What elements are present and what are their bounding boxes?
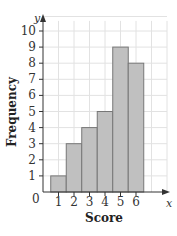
- y-axis-label: Frequency: [5, 76, 19, 147]
- bar-5: [113, 47, 129, 192]
- x-tick-label: 6: [132, 195, 140, 209]
- bar-4: [97, 112, 113, 193]
- y-tick-label: 1: [28, 169, 36, 183]
- origin-label: 0: [32, 192, 40, 206]
- y-tick-label: 5: [28, 105, 36, 119]
- y-tick-label: 2: [28, 153, 36, 167]
- x-tick-label: 1: [55, 195, 63, 209]
- x-tick-label: 3: [86, 195, 94, 209]
- y-tick-label: 9: [28, 40, 36, 54]
- y-axis-variable: y: [33, 12, 41, 25]
- y-tick-label: 8: [28, 56, 36, 70]
- histogram-chart: 12345612345678910 y x 0 Score Frequency: [0, 0, 177, 236]
- bar-6: [128, 63, 144, 192]
- y-tick-label: 10: [21, 24, 36, 38]
- bars: [51, 47, 144, 192]
- y-tick-label: 7: [28, 72, 36, 86]
- bar-1: [51, 176, 67, 192]
- bar-2: [66, 144, 82, 192]
- x-axis-label: Score: [85, 211, 123, 225]
- x-tick-label: 5: [117, 195, 125, 209]
- y-tick-label: 6: [28, 88, 36, 102]
- x-axis-variable: x: [166, 197, 173, 210]
- x-tick-label: 4: [101, 195, 109, 209]
- y-tick-label: 3: [28, 137, 36, 151]
- bar-3: [82, 128, 98, 192]
- y-tick-label: 4: [28, 121, 36, 135]
- x-tick-label: 2: [70, 195, 78, 209]
